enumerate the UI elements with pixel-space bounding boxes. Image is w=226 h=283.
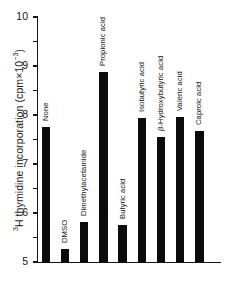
- y-tick-mark: 2: [33, 212, 38, 213]
- y-tick-label: 9: [22, 59, 28, 71]
- bar: Caproic acid: [195, 131, 204, 262]
- y-tick-mark: 1: [33, 237, 38, 238]
- y-tick-mark: 6: [33, 114, 38, 115]
- bar-chart-figure: 3H thymidine incorporation (cpm×10−3) 10…: [0, 0, 226, 283]
- y-tick-label: 7: [22, 157, 28, 169]
- y-tick-mark: 8: [33, 65, 38, 66]
- y-tick-mark: 0: [33, 261, 38, 262]
- bar-label: Isobutyric acid: [137, 62, 146, 112]
- bar: DMSO: [61, 249, 70, 262]
- bar-label: None: [41, 103, 50, 122]
- y-tick-mark: 3: [33, 188, 38, 189]
- y-tick-label: 6: [22, 206, 28, 218]
- bar-label: Propionic acid: [99, 17, 108, 66]
- bar-label: Butyric acid: [118, 179, 127, 219]
- y-tick-label: 8: [22, 108, 28, 120]
- y-axis-title: 3H thymidine incorporation (cpm×10−3): [12, 15, 28, 265]
- y-tick-mark: 10: [33, 16, 38, 17]
- y-tick-mark: 7: [33, 90, 38, 91]
- bar: Dimethylacetamide: [80, 222, 89, 262]
- bar: Butyric acid: [118, 225, 127, 262]
- y-tick-label: 10: [16, 10, 28, 22]
- bar-label: β-Hydroxybutyric acid: [156, 56, 165, 131]
- bar: Isobutyric acid: [138, 118, 147, 262]
- y-tick-mark: 9: [33, 41, 38, 42]
- bar-label: Valeric acid: [175, 71, 184, 111]
- bar: β-Hydroxybutyric acid: [157, 137, 166, 262]
- y-tick-mark: 4: [33, 163, 38, 164]
- plot-area: 109876543210 NoneDMSODimethylacetamidePr…: [37, 17, 221, 262]
- bar-label: DMSO: [60, 220, 69, 243]
- bar: Propionic acid: [99, 72, 108, 262]
- x-axis-baseline: [37, 262, 221, 263]
- bar-label: Caproic acid: [195, 82, 204, 125]
- y-tick-label: 5: [22, 255, 28, 267]
- bar: None: [42, 127, 51, 262]
- y-tick-mark: 5: [33, 139, 38, 140]
- bar-label: Dimethylacetamide: [79, 150, 88, 216]
- bar: Valeric acid: [176, 117, 185, 262]
